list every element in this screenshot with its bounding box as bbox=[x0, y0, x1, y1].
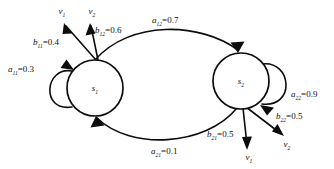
transition-label-a12: a12=0.7 bbox=[152, 15, 179, 27]
arrow-head-b22 bbox=[272, 124, 284, 136]
arrow-head-b12 bbox=[86, 23, 96, 36]
emission-label-b21: b21=0.5 bbox=[207, 129, 234, 141]
state-node-s1[interactable]: s1 bbox=[67, 60, 123, 116]
arrow-head-b11 bbox=[63, 23, 73, 34]
emission-label-b22: b22=0.5 bbox=[276, 111, 303, 123]
transition-label-a21: a21=0.1 bbox=[151, 146, 177, 158]
emission-label-b11: b11=0.4 bbox=[33, 37, 60, 49]
emission-edge-b21 bbox=[242, 108, 252, 150]
output-label-v2-top: v2 bbox=[89, 6, 96, 18]
emission-label-b12: b12=0.6 bbox=[95, 25, 122, 37]
transition-label-a22: a22=0.9 bbox=[291, 89, 318, 101]
output-label-v2-bottom: v2 bbox=[284, 139, 291, 151]
transition-label-a11: a11=0.3 bbox=[8, 64, 35, 76]
arrow-head-a11 bbox=[61, 60, 75, 71]
hmm-diagram-canvas: s1 s2 a11=0.3 a12=0.7 a21=0.1 a22=0.9 b1… bbox=[0, 0, 334, 169]
state-transition-diagram: s1 s2 a11=0.3 a12=0.7 a21=0.1 a22=0.9 b1… bbox=[0, 0, 334, 169]
arrow-head-a22 bbox=[260, 105, 274, 116]
state-node-s2[interactable]: s2 bbox=[213, 53, 269, 109]
arrow-head-b21 bbox=[242, 137, 252, 151]
output-label-v1-bottom: v1 bbox=[246, 152, 253, 164]
output-label-v1-top: v1 bbox=[59, 6, 66, 18]
